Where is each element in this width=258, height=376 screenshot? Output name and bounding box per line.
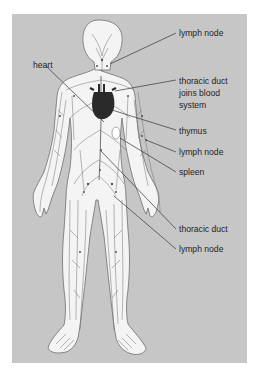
label-thoracic-duct: thoracic duct (179, 224, 228, 234)
label-thoracic-duct-joins-2: joins blood (179, 88, 220, 98)
label-lymph-node-arm: lymph node (179, 147, 223, 157)
label-spleen: spleen (179, 167, 204, 177)
label-heart: heart (33, 60, 53, 70)
label-lymph-node-neck: lymph node (179, 28, 223, 38)
label-thoracic-duct-joins-1: thoracic duct (179, 76, 228, 86)
spleen-organ (112, 127, 120, 139)
label-thoracic-duct-joins-3: system (179, 100, 206, 110)
lymphatic-system-figure (0, 0, 258, 376)
label-thymus: thymus (179, 126, 207, 136)
label-lymph-node-groin: lymph node (179, 244, 223, 254)
human-body-outline (33, 20, 159, 355)
